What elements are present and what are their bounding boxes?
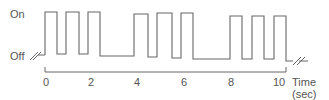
x-tick-4: 4 xyxy=(134,77,140,88)
x-tick-2: 2 xyxy=(88,77,94,88)
x-tick-8: 8 xyxy=(228,77,234,88)
x-tick-0: 0 xyxy=(43,77,49,88)
axis-break-end-icon xyxy=(293,57,308,65)
axis-break-start-icon xyxy=(30,52,45,60)
x-axis-unit: (sec) xyxy=(292,89,316,100)
x-tick-6: 6 xyxy=(181,77,187,88)
x-tick-10: 10 xyxy=(273,77,285,88)
time-axis xyxy=(45,67,286,72)
x-axis-label: Time xyxy=(292,77,316,88)
signal-line xyxy=(45,12,293,61)
